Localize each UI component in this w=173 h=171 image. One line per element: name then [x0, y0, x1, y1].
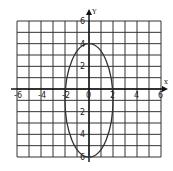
x-tick-label: -4 — [38, 91, 46, 100]
x-axis-label: x — [164, 78, 168, 86]
y-tick-label: 2 — [80, 62, 85, 71]
x-tick-label: -2 — [62, 91, 70, 100]
x-tick-label: 2 — [110, 91, 115, 100]
y-tick-label: 2 — [80, 108, 85, 117]
y-tick-label: 4 — [80, 130, 85, 139]
y-axis-label: Y — [91, 8, 97, 16]
x-tick-label: 6 — [158, 91, 163, 100]
ellipse-graph: xY -6-4-20246642246 — [0, 0, 173, 171]
y-tick-label: 4 — [80, 40, 85, 49]
x-tick-label: -6 — [14, 91, 22, 100]
y-tick-label: 6 — [80, 17, 85, 26]
x-tick-label: 4 — [134, 91, 139, 100]
x-tick-label: 0 — [86, 91, 91, 100]
y-tick-label: 6 — [80, 153, 85, 162]
axes: xY — [11, 8, 168, 162]
